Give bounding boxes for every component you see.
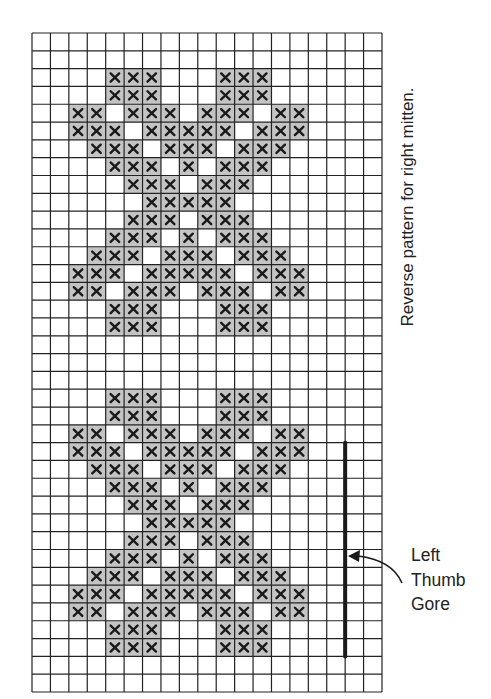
marked-stitch-cell bbox=[253, 550, 271, 568]
marked-stitch-cell bbox=[69, 122, 87, 140]
marked-stitch-cell bbox=[198, 460, 216, 478]
marked-stitch-cell bbox=[253, 443, 271, 461]
marked-stitch-cell bbox=[235, 229, 253, 247]
marked-stitch-cell bbox=[161, 443, 179, 461]
marked-stitch-cell bbox=[271, 567, 289, 585]
marked-stitch-cell bbox=[161, 193, 179, 211]
marked-stitch-cell bbox=[216, 514, 234, 532]
marked-stitch-cell bbox=[87, 122, 105, 140]
marked-stitch-cell bbox=[235, 478, 253, 496]
marked-stitch-cell bbox=[235, 86, 253, 104]
marked-stitch-cell bbox=[124, 496, 142, 514]
marked-stitch-cell bbox=[198, 443, 216, 461]
marked-stitch-cell bbox=[69, 425, 87, 443]
marked-stitch-cell bbox=[106, 639, 124, 657]
marked-stitch-cell bbox=[143, 229, 161, 247]
marked-stitch-cell bbox=[235, 532, 253, 550]
marked-stitch-cell bbox=[216, 389, 234, 407]
marked-stitch-cell bbox=[69, 585, 87, 603]
marked-stitch-cell bbox=[290, 443, 308, 461]
marked-stitch-cell bbox=[143, 407, 161, 425]
marked-stitch-cell bbox=[143, 193, 161, 211]
marked-stitch-cell bbox=[124, 460, 142, 478]
marked-stitch-cell bbox=[216, 104, 234, 122]
marked-stitch-cell bbox=[271, 443, 289, 461]
marked-stitch-cell bbox=[198, 585, 216, 603]
marked-stitch-cell bbox=[124, 175, 142, 193]
marked-stitch-cell bbox=[235, 247, 253, 265]
marked-stitch-cell bbox=[106, 550, 124, 568]
marked-stitch-cell bbox=[87, 140, 105, 158]
marked-stitch-cell bbox=[143, 265, 161, 283]
marked-stitch-cell bbox=[235, 460, 253, 478]
marked-stitch-cell bbox=[124, 425, 142, 443]
marked-stitch-cell bbox=[271, 282, 289, 300]
marked-stitch-cell bbox=[143, 585, 161, 603]
marked-stitch-cell bbox=[235, 282, 253, 300]
marked-stitch-cell bbox=[69, 282, 87, 300]
marked-stitch-cell bbox=[143, 211, 161, 229]
marked-stitch-cell bbox=[253, 229, 271, 247]
marked-stitch-cell bbox=[216, 496, 234, 514]
marked-stitch-cell bbox=[198, 603, 216, 621]
marked-stitch-cell bbox=[290, 425, 308, 443]
marked-stitch-cell bbox=[106, 300, 124, 318]
marked-stitch-cell bbox=[198, 532, 216, 550]
marked-stitch-cell bbox=[87, 443, 105, 461]
marked-stitch-cell bbox=[179, 478, 197, 496]
marked-stitch-cell bbox=[161, 567, 179, 585]
marked-stitch-cell bbox=[124, 478, 142, 496]
marked-stitch-cell bbox=[69, 443, 87, 461]
marked-stitch-cell bbox=[179, 443, 197, 461]
marked-stitch-cell bbox=[235, 389, 253, 407]
marked-stitch-cell bbox=[124, 211, 142, 229]
marked-stitch-cell bbox=[271, 247, 289, 265]
marked-stitch-cell bbox=[216, 443, 234, 461]
marked-stitch-cell bbox=[106, 567, 124, 585]
marked-stitch-cell bbox=[253, 639, 271, 657]
marked-stitch-cell bbox=[198, 567, 216, 585]
marked-stitch-cell bbox=[290, 265, 308, 283]
marked-stitch-cell bbox=[253, 69, 271, 87]
marked-stitch-cell bbox=[87, 104, 105, 122]
chart-cells bbox=[69, 69, 308, 657]
marked-stitch-cell bbox=[161, 425, 179, 443]
marked-stitch-cell bbox=[106, 443, 124, 461]
marked-stitch-cell bbox=[253, 300, 271, 318]
marked-stitch-cell bbox=[179, 158, 197, 176]
gore-label-line-3: Gore bbox=[411, 592, 465, 617]
marked-stitch-cell bbox=[216, 86, 234, 104]
marked-stitch-cell bbox=[253, 140, 271, 158]
marked-stitch-cell bbox=[216, 282, 234, 300]
marked-stitch-cell bbox=[143, 300, 161, 318]
marked-stitch-cell bbox=[124, 407, 142, 425]
marked-stitch-cell bbox=[124, 104, 142, 122]
marked-stitch-cell bbox=[253, 585, 271, 603]
marked-stitch-cell bbox=[106, 229, 124, 247]
marked-stitch-cell bbox=[143, 550, 161, 568]
marked-stitch-cell bbox=[216, 407, 234, 425]
marked-stitch-cell bbox=[106, 140, 124, 158]
marked-stitch-cell bbox=[253, 567, 271, 585]
marked-stitch-cell bbox=[69, 603, 87, 621]
marked-stitch-cell bbox=[253, 460, 271, 478]
marked-stitch-cell bbox=[87, 425, 105, 443]
gore-label-line-2: Thumb bbox=[411, 568, 465, 593]
marked-stitch-cell bbox=[179, 460, 197, 478]
marked-stitch-cell bbox=[87, 460, 105, 478]
marked-stitch-cell bbox=[179, 229, 197, 247]
marked-stitch-cell bbox=[290, 585, 308, 603]
marked-stitch-cell bbox=[216, 122, 234, 140]
marked-stitch-cell bbox=[143, 104, 161, 122]
marked-stitch-cell bbox=[198, 265, 216, 283]
marked-stitch-cell bbox=[235, 175, 253, 193]
marked-stitch-cell bbox=[124, 318, 142, 336]
marked-stitch-cell bbox=[290, 122, 308, 140]
marked-stitch-cell bbox=[124, 140, 142, 158]
left-thumb-gore-label: Left Thumb Gore bbox=[411, 543, 465, 617]
marked-stitch-cell bbox=[124, 603, 142, 621]
marked-stitch-cell bbox=[179, 247, 197, 265]
marked-stitch-cell bbox=[216, 318, 234, 336]
marked-stitch-cell bbox=[216, 300, 234, 318]
marked-stitch-cell bbox=[179, 265, 197, 283]
